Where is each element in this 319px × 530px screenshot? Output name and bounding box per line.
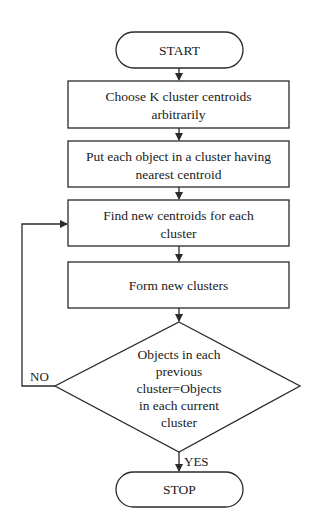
arrow-no-loop: [22, 224, 67, 386]
choose-centroids-node: Choose K cluster centroids arbitrarily: [68, 81, 289, 128]
no-label: NO: [30, 369, 49, 384]
start-label: START: [159, 43, 201, 58]
stop-node: STOP: [116, 472, 243, 507]
decision-line-2: previous: [156, 364, 203, 379]
start-node: START: [116, 32, 243, 68]
convergence-decision-node: Objects in each previous cluster=Objects…: [55, 322, 300, 452]
assign-line-2: nearest centroid: [136, 167, 222, 182]
assign-line-1: Put each object in a cluster having: [86, 149, 271, 164]
choose-line-1: Choose K cluster centroids: [106, 89, 252, 104]
decision-line-5: cluster: [161, 415, 197, 430]
decision-line-1: Objects in each: [137, 347, 220, 362]
kmeans-flowchart: START Choose K cluster centroids arbitra…: [0, 0, 319, 530]
decision-line-4: in each current: [139, 398, 219, 413]
yes-label: YES: [184, 454, 209, 469]
find-centroids-node: Find new centroids for each cluster: [68, 200, 289, 246]
choose-line-2: arbitrarily: [152, 107, 206, 122]
assign-objects-node: Put each object in a cluster having near…: [68, 141, 289, 187]
decision-line-3: cluster=Objects: [137, 381, 222, 396]
find-line-1: Find new centroids for each: [103, 208, 254, 223]
find-line-2: cluster: [161, 226, 197, 241]
form-line-1: Form new clusters: [129, 278, 229, 293]
stop-label: STOP: [163, 482, 196, 497]
form-clusters-node: Form new clusters: [68, 262, 289, 308]
